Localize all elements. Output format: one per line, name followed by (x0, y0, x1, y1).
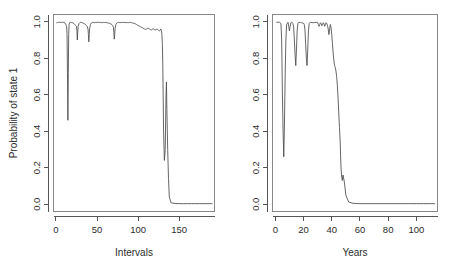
x-axis-title-years: Years (342, 247, 367, 258)
x-tick-label: 40 (326, 224, 337, 235)
plot-box-years (273, 15, 438, 212)
plot-svg-years: 0.00.20.40.60.81.0 020406080100 Years (225, 0, 450, 272)
x-tick-label: 50 (92, 224, 103, 235)
y-axis-years: 0.00.20.40.60.81.0 (250, 15, 268, 212)
x-tick-group: 020406080100 (273, 216, 425, 235)
x-tick-label: 60 (355, 224, 366, 235)
plot-svg-intervals: 0.00.20.40.60.81.0 050100150 Intervals P… (0, 0, 225, 272)
y-tick-group: 0.00.20.40.60.81.0 (31, 15, 49, 211)
plot-box-intervals (54, 15, 215, 212)
x-tick-label: 0 (53, 224, 58, 235)
y-tick-label: 0.2 (31, 161, 42, 174)
y-tick-label: 0.6 (31, 88, 42, 101)
x-tick-label: 100 (130, 224, 146, 235)
x-axis-intervals: 050100150 (53, 216, 214, 235)
x-tick-label: 150 (171, 224, 187, 235)
y-tick-label: 0.8 (250, 52, 261, 65)
y-axis-intervals: 0.00.20.40.60.81.0 (31, 15, 49, 212)
x-tick-label: 80 (383, 224, 394, 235)
x-tick-label: 20 (298, 224, 309, 235)
y-tick-label: 0.0 (250, 198, 261, 211)
y-tick-label: 1.0 (250, 15, 261, 28)
y-tick-label: 0.4 (31, 125, 42, 138)
y-tick-label: 0.4 (250, 125, 261, 138)
series-line-probability-state-1 (57, 22, 212, 204)
series-line-probability-state-1 (277, 22, 435, 204)
chart-panel-years: 0.00.20.40.60.81.0 020406080100 Years (225, 0, 450, 272)
y-tick-label: 0.0 (31, 198, 42, 211)
x-tick-label: 100 (408, 224, 424, 235)
y-tick-label: 0.2 (250, 161, 261, 174)
y-tick-label: 0.6 (250, 88, 261, 101)
y-tick-label: 1.0 (31, 15, 42, 28)
x-axis-years: 020406080100 (273, 216, 438, 235)
chart-panel-intervals: 0.00.20.40.60.81.0 050100150 Intervals P… (0, 0, 225, 272)
y-tick-group: 0.00.20.40.60.81.0 (250, 15, 268, 211)
x-tick-group: 050100150 (53, 216, 187, 235)
x-axis-title-intervals: Intervals (115, 247, 153, 258)
y-tick-label: 0.8 (31, 52, 42, 65)
x-tick-label: 0 (273, 224, 278, 235)
y-axis-title-probability: Probability of state 1 (8, 67, 19, 158)
figure-container: 0.00.20.40.60.81.0 050100150 Intervals P… (0, 0, 450, 272)
